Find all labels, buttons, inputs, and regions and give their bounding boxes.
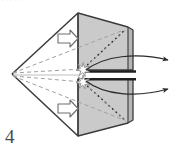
prism-side-face-lower	[128, 79, 133, 123]
diagram-svg	[0, 0, 185, 149]
prism-side-face-upper	[128, 27, 133, 70]
figure-number-label: 4	[5, 127, 15, 146]
dashed-ray-lower	[13, 76, 83, 82]
figure-container: · · · · · ·	[0, 0, 185, 149]
lower-input-block-arrow	[58, 100, 78, 117]
